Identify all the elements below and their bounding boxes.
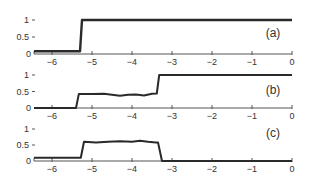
stacked-step-plots: −6−5−4−3−2−1000.51(a)−6−5−4−3−2−1000.51(… <box>0 0 311 193</box>
panel-a: −6−5−4−3−2−1000.51(a) <box>16 15 294 67</box>
x-tick-label: −1 <box>247 111 257 121</box>
x-tick-label: −5 <box>87 57 97 67</box>
panel-label: (a) <box>266 26 281 40</box>
series-line-c <box>34 141 292 161</box>
y-tick-label: 0.5 <box>16 32 29 42</box>
y-tick-label: 0.5 <box>16 87 29 97</box>
series-line-a <box>34 20 292 51</box>
y-tick-label: 1 <box>24 124 29 134</box>
y-tick-label: 0.5 <box>16 140 29 150</box>
chart-figure: −6−5−4−3−2−1000.51(a)−6−5−4−3−2−1000.51(… <box>0 0 311 193</box>
x-tick-label: −3 <box>167 57 177 67</box>
y-tick-label: 0 <box>26 156 31 166</box>
x-tick-label: −1 <box>247 57 257 67</box>
x-tick-label: −6 <box>47 111 57 121</box>
x-tick-label: −5 <box>87 164 97 174</box>
x-tick-label: 0 <box>289 111 294 121</box>
y-tick-label: 0 <box>26 49 31 59</box>
x-tick-label: −5 <box>87 111 97 121</box>
x-tick-label: 0 <box>289 164 294 174</box>
panel-label: (b) <box>266 83 281 97</box>
x-tick-label: −6 <box>47 57 57 67</box>
x-tick-label: −3 <box>167 164 177 174</box>
x-tick-label: −4 <box>127 111 137 121</box>
y-tick-label: 0 <box>26 103 31 113</box>
panel-label: (c) <box>266 126 280 140</box>
x-tick-label: −1 <box>247 164 257 174</box>
x-tick-label: −2 <box>207 111 217 121</box>
x-tick-label: −2 <box>207 164 217 174</box>
x-tick-label: −4 <box>127 164 137 174</box>
x-tick-label: −6 <box>47 164 57 174</box>
x-tick-label: −3 <box>167 111 177 121</box>
y-tick-label: 1 <box>24 15 29 25</box>
x-tick-label: 0 <box>289 57 294 67</box>
y-tick-label: 1 <box>24 70 29 80</box>
panel-c: −6−5−4−3−2−1000.51(c) <box>16 124 294 174</box>
x-tick-label: −2 <box>207 57 217 67</box>
series-line-b <box>34 75 292 108</box>
panel-b: −6−5−4−3−2−1000.51(b) <box>16 70 294 121</box>
x-tick-label: −4 <box>127 57 137 67</box>
